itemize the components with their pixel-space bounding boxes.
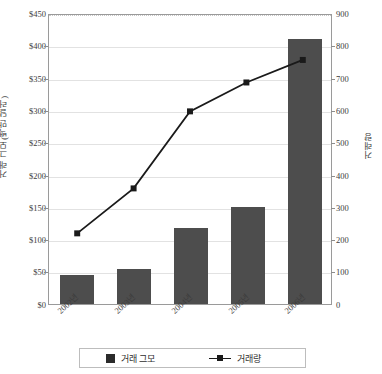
tickmark-right-200 [331,240,335,241]
ytick-right-500: 500 [336,139,349,148]
tickmark-left-300 [44,111,48,112]
ytick-left-0: $0 [38,301,47,310]
tickmark-left-250 [44,143,48,144]
ytick-left-450: $450 [29,10,46,19]
tickmark-right-100 [331,272,335,273]
marker-2006 [300,57,306,63]
tickmark-left-100 [44,240,48,241]
tickmark-right-500 [331,143,335,144]
ytick-right-800: 800 [336,42,349,51]
tickmark-right-700 [331,79,335,80]
line-series-volume [49,15,331,304]
marker-2003 [131,185,137,191]
ytick-right-600: 600 [336,107,349,116]
tickmark-right-800 [331,46,335,47]
marker-2005 [243,79,249,85]
tickmark-left-400 [44,46,48,47]
plot-area [48,14,332,305]
legend-line-swatch-icon [209,354,231,363]
ytick-right-200: 200 [336,236,349,245]
tickmark-right-600 [331,111,335,112]
marker-2002 [74,230,80,236]
tickmark-right-300 [331,208,335,209]
tickmark-left-150 [44,208,48,209]
tickmark-left-350 [44,79,48,80]
ytick-right-900: 900 [336,10,349,19]
ytick-right-300: 300 [336,204,349,213]
ytick-right-100: 100 [336,268,349,277]
ytick-right-700: 700 [336,75,349,84]
ytick-right-0: 0 [336,301,340,310]
chart-legend: 거래 그모 거래량 [79,348,306,368]
y-axis-title-right: 거래량 [364,132,378,159]
ytick-right-400: 400 [336,172,349,181]
line-path-volume [77,60,303,233]
tickmark-left-200 [44,176,48,177]
marker-2004 [187,108,193,114]
tickmark-left-50 [44,272,48,273]
legend-item-transaction-size: 거래 그모 [106,352,155,365]
y-axis-title-left: 거래 그모(백만 달러) [0,96,13,178]
legend-item-transaction-volume: 거래량 [209,352,261,365]
legend-label-transaction-volume: 거래량 [237,352,261,365]
tickmark-right-400 [331,176,335,177]
legend-bar-swatch-icon [106,354,115,363]
combo-chart: $450 $400 $350 $300 $250 $200 $150 $100 … [0,0,382,374]
legend-label-transaction-size: 거래 그모 [121,352,155,365]
